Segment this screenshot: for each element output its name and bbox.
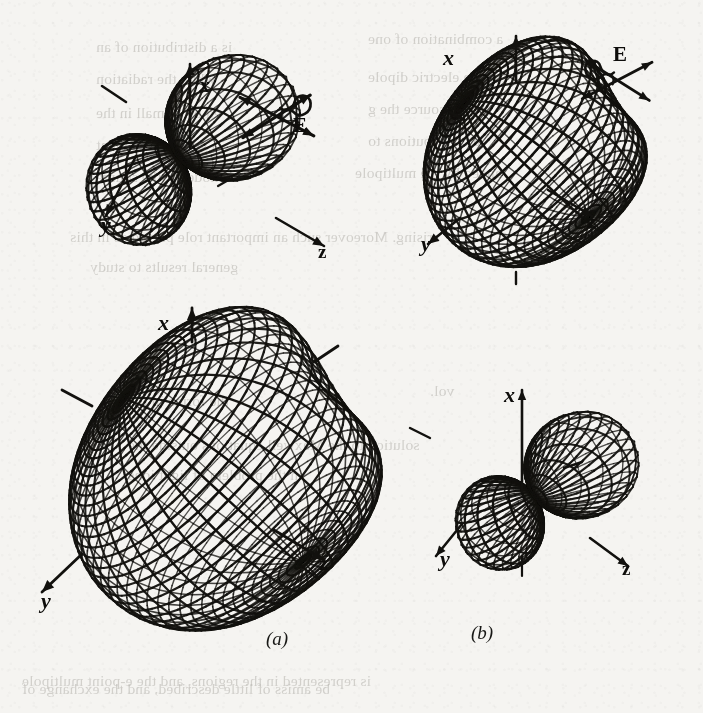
wireframe-mesh — [456, 412, 639, 570]
axis-tick — [62, 390, 92, 406]
axis-label-z: z — [622, 559, 630, 578]
e-field-label: E — [613, 44, 627, 65]
e-field-label: E — [293, 115, 307, 136]
axis-z — [276, 218, 324, 246]
figure-bottom-left-large-pattern: x y z — [16, 302, 406, 632]
figure-bottom-right-small-pattern: x y z — [404, 396, 694, 616]
wireframe-mesh — [424, 36, 647, 267]
axis-y — [42, 554, 82, 592]
axis-label-y: y — [41, 590, 51, 612]
scanned-page: a combination of oneis a distribution of… — [0, 0, 703, 713]
wireframe-mesh — [86, 55, 300, 245]
axis-label-x: x — [199, 74, 210, 96]
axis-label-z: z — [318, 242, 326, 261]
wireframe-mesh — [69, 307, 382, 631]
axis-y — [428, 218, 460, 244]
axis-label-y: y — [440, 548, 450, 570]
axis-label-z: z — [587, 212, 595, 231]
ghost-text-line: be amiss of little described, and the ex… — [22, 680, 330, 698]
mesh-bottom-right — [404, 396, 694, 616]
caption-a: (a) — [266, 628, 288, 650]
axis-tick — [410, 428, 430, 438]
ghost-text-line: is represented in the regions, and the e… — [22, 672, 371, 690]
mesh-bottom-left — [16, 302, 406, 632]
axis-tick — [314, 346, 338, 362]
figure-top-left-dipole-pattern: x y z E — [18, 28, 348, 278]
axis-label-z: z — [319, 554, 327, 573]
caption-b: (b) — [471, 622, 493, 644]
figure-top-right-spheroid-pattern: x y z E — [368, 22, 688, 292]
mesh-top-left — [18, 28, 348, 278]
axis-label-x: x — [158, 312, 169, 334]
axis-label-y: y — [421, 233, 431, 255]
mesh-top-right — [368, 22, 688, 292]
axis-label-x: x — [504, 384, 515, 406]
axis-label-y: y — [101, 214, 111, 236]
axis-tick — [102, 86, 126, 102]
axis-label-x: x — [443, 47, 454, 69]
